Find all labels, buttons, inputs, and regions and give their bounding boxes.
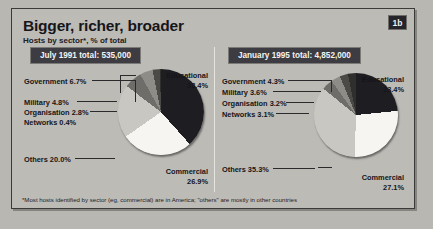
- leader-government-1991-v: [135, 80, 136, 102]
- leader-educational-1991-v: [120, 75, 121, 93]
- label-educational-value-1995: 23.4%: [383, 85, 404, 94]
- label-commercial-name-1991: Commercial: [166, 167, 208, 176]
- panel-header-january-1995: January 1995 total: 4,852,000: [228, 47, 361, 64]
- page-title: Bigger, richer, broader: [23, 17, 184, 35]
- panel-july-1991: July 1991 total: 535,000 Government 6.7%…: [20, 47, 214, 192]
- label-networks-1991: Networks 0.4%: [24, 118, 76, 128]
- chart-figure: Bigger, richer, broader Hosts by sector*…: [11, 8, 415, 209]
- label-commercial-1991: Commercial 26.9%: [138, 167, 208, 186]
- label-organisation-1991: Organisation 2.8%: [24, 108, 88, 118]
- leader-government-1995-v: [331, 80, 332, 92]
- leader-others-1995: [273, 168, 315, 169]
- label-commercial-name-1995: Commercial: [362, 173, 404, 182]
- leader-commercial-1995: [318, 167, 332, 168]
- leader-government-1995: [288, 80, 332, 81]
- label-educational-1991: Educational 38.4%: [138, 71, 208, 90]
- label-commercial-value-1991: 26.9%: [187, 177, 208, 186]
- label-educational-name-1995: Educational: [362, 75, 404, 84]
- chart-footnote: *Most hosts identified by sector (eg, co…: [22, 196, 297, 203]
- leader-military-1991: [77, 101, 117, 102]
- figure-badge: 1b: [388, 15, 407, 30]
- label-government-1995: Government 4.3%: [222, 77, 284, 87]
- label-commercial-value-1995: 27.1%: [383, 183, 404, 192]
- label-organisation-1995: Organisation 3.2%: [222, 99, 286, 109]
- label-educational-1995: Educational 23.4%: [334, 75, 404, 94]
- leader-organisation-1995: [286, 102, 314, 103]
- leader-military-1995: [273, 91, 321, 92]
- label-educational-value-1991: 38.4%: [187, 81, 208, 90]
- chart-subtitle: Hosts by sector*, % of total: [23, 36, 127, 45]
- leader-organisation-1991: [90, 111, 117, 112]
- label-government-1991: Government 6.7%: [24, 77, 86, 87]
- label-networks-1995: Networks 3.1%: [222, 110, 274, 120]
- panel-january-1995: January 1995 total: 4,852,000 Government…: [218, 47, 408, 192]
- leader-educational-1991: [120, 75, 136, 76]
- panel-divider: [214, 47, 215, 192]
- label-educational-name-1991: Educational: [166, 71, 208, 80]
- label-others-1995: Others 35.3%: [222, 165, 269, 175]
- label-others-1991: Others 20.0%: [24, 155, 71, 165]
- label-commercial-1995: Commercial 27.1%: [334, 173, 404, 192]
- label-military-1991: Military 4.8%: [24, 98, 69, 108]
- panel-header-july-1991: July 1991 total: 535,000: [30, 47, 141, 64]
- leader-others-1991: [75, 158, 115, 159]
- leader-government-1991: [92, 80, 136, 81]
- leader-networks-1995: [276, 113, 309, 114]
- label-military-1995: Military 3.6%: [222, 88, 267, 98]
